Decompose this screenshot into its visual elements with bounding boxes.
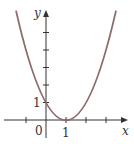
x-axis-label: x <box>122 124 129 138</box>
y-axis-label: y <box>33 6 41 20</box>
y-tick-label-1: 1 <box>33 96 41 110</box>
parabola-graph: y x 0 1 1 <box>0 0 134 144</box>
origin-label: 0 <box>35 124 43 138</box>
x-tick-label-1: 1 <box>62 126 70 140</box>
x-axis-arrow-icon <box>121 117 128 123</box>
y-axis-arrow-icon <box>43 10 49 17</box>
parabola-curve <box>16 11 116 121</box>
